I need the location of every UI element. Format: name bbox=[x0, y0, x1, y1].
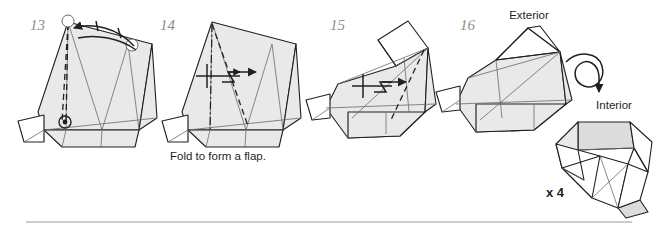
step-panel-13: 13 bbox=[18, 15, 157, 147]
paper-face-right-wing bbox=[630, 122, 652, 172]
step-panel-14: 14 Fo bbox=[160, 17, 301, 162]
reference-circle bbox=[62, 15, 74, 27]
paper-face-band bbox=[476, 104, 566, 132]
paper-face-band bbox=[348, 112, 425, 138]
paper-face-main bbox=[38, 22, 152, 130]
paper-face-band bbox=[188, 130, 283, 147]
origami-instruction-sheet: 13 bbox=[0, 0, 658, 235]
step-panel-15: 15 bbox=[306, 17, 436, 138]
model-figure-13 bbox=[18, 15, 157, 147]
step-number-15: 15 bbox=[330, 17, 346, 33]
edge-line bbox=[628, 148, 634, 164]
multiplier-label: x 4 bbox=[546, 185, 565, 200]
model-figure-16-exterior bbox=[436, 26, 572, 132]
step-number-16: 16 bbox=[460, 17, 476, 33]
model-figure-15 bbox=[306, 21, 436, 138]
exterior-label: Exterior bbox=[509, 9, 549, 21]
model-figure-16-interior bbox=[556, 122, 652, 218]
paper-face-top bbox=[578, 122, 634, 150]
interior-label: Interior bbox=[596, 99, 632, 111]
step-number-13: 13 bbox=[30, 17, 45, 33]
step-caption-14: Fold to form a flap. bbox=[170, 150, 266, 162]
turn-over-arrow bbox=[566, 54, 603, 92]
step-panel-16: 16 Exterior Interior bbox=[436, 9, 652, 218]
step-number-14: 14 bbox=[160, 17, 176, 33]
model-figure-14 bbox=[162, 22, 301, 147]
edge-line bbox=[578, 150, 600, 156]
paper-face-band bbox=[44, 130, 139, 147]
